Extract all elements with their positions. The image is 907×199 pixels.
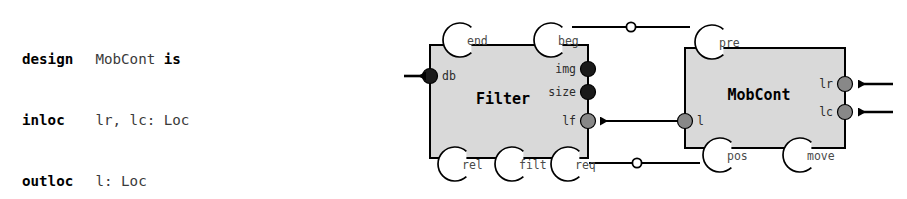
- data-port-label-db: db: [442, 69, 456, 83]
- data-port-label-l: l: [697, 114, 704, 128]
- connection-beg-pre[interactable]: [572, 22, 690, 31]
- data-port-label-lc: lc: [819, 105, 833, 119]
- action-port-label-pre: pre: [719, 36, 740, 50]
- data-port-dot: [838, 105, 853, 120]
- connection-node-icon: [626, 22, 635, 31]
- data-port-size[interactable]: [581, 85, 596, 100]
- action-port-label-move: move: [807, 149, 835, 163]
- data-port-img[interactable]: [581, 62, 596, 77]
- data-port-lr[interactable]: [838, 77, 853, 92]
- data-port-dot: [581, 85, 596, 100]
- data-port-l[interactable]: [678, 114, 693, 129]
- component-name-filter: Filter: [476, 90, 530, 108]
- data-port-label-img: img: [555, 62, 576, 76]
- data-port-dot: [581, 114, 596, 129]
- data-port-label-lr: lr: [819, 77, 833, 91]
- action-port-label-req: req: [575, 158, 596, 172]
- data-port-lf[interactable]: [581, 114, 596, 129]
- connection-req-pos[interactable]: [589, 158, 700, 167]
- component-diagram: endbegprerelfiltreqposmoveFilterMobContd…: [0, 0, 907, 199]
- connection-node-icon: [632, 158, 641, 167]
- data-port-lc[interactable]: [838, 105, 853, 120]
- action-port-label-filt: filt: [519, 158, 547, 172]
- data-port-dot: [581, 62, 596, 77]
- action-port-label-pos: pos: [727, 149, 748, 163]
- data-port-dot: [678, 114, 693, 129]
- component-name-mobcont: MobCont: [727, 86, 790, 104]
- action-port-label-end: end: [467, 34, 488, 48]
- data-port-dot: [838, 77, 853, 92]
- action-port-label-beg: beg: [558, 34, 579, 48]
- data-port-label-lf: lf: [562, 114, 576, 128]
- action-port-label-rel: rel: [462, 158, 483, 172]
- data-port-label-size: size: [548, 85, 576, 99]
